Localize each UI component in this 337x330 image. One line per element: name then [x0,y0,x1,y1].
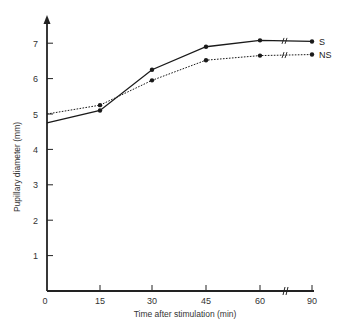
y-axis-title: Pupillary diameter (mm) [12,122,22,212]
data-point-ns [310,52,314,56]
data-point-ns [258,53,262,57]
axes [44,15,315,295]
data-point-s [98,108,102,112]
legend-label-s: S [319,37,325,47]
data-point-s [204,45,208,49]
y-tick-label: 4 [33,145,38,155]
y-tick-label: 2 [33,216,38,226]
x-tick-label: 15 [95,296,105,306]
x-tick-label: 45 [201,296,211,306]
data-point-ns [98,103,102,107]
y-axis-arrow-icon [44,15,51,24]
x-tick-label: 90 [307,296,317,306]
x-axis-title: Time after stimulation (min) [134,309,237,319]
legend-label-ns: NS [319,50,332,60]
y-tick-label: 5 [33,110,38,120]
ticks: 123456701530456090 [33,39,317,306]
series: SNS [47,37,332,123]
y-tick-label: 3 [33,180,38,190]
y-tick-label: 6 [33,74,38,84]
data-point-ns [150,78,154,82]
x-tick-label: 30 [147,296,157,306]
y-tick-label: 1 [33,251,38,261]
x-tick-label: 0 [42,296,47,306]
data-point-s [258,38,262,42]
y-tick-label: 7 [33,39,38,49]
pupil-diameter-chart: 123456701530456090 SNS Time after stimul… [0,0,337,330]
data-point-s [310,39,314,43]
x-tick-label: 60 [255,296,265,306]
data-point-ns [204,58,208,62]
series-line-s [47,40,312,122]
data-point-s [150,68,154,72]
series-line-ns [47,55,312,114]
